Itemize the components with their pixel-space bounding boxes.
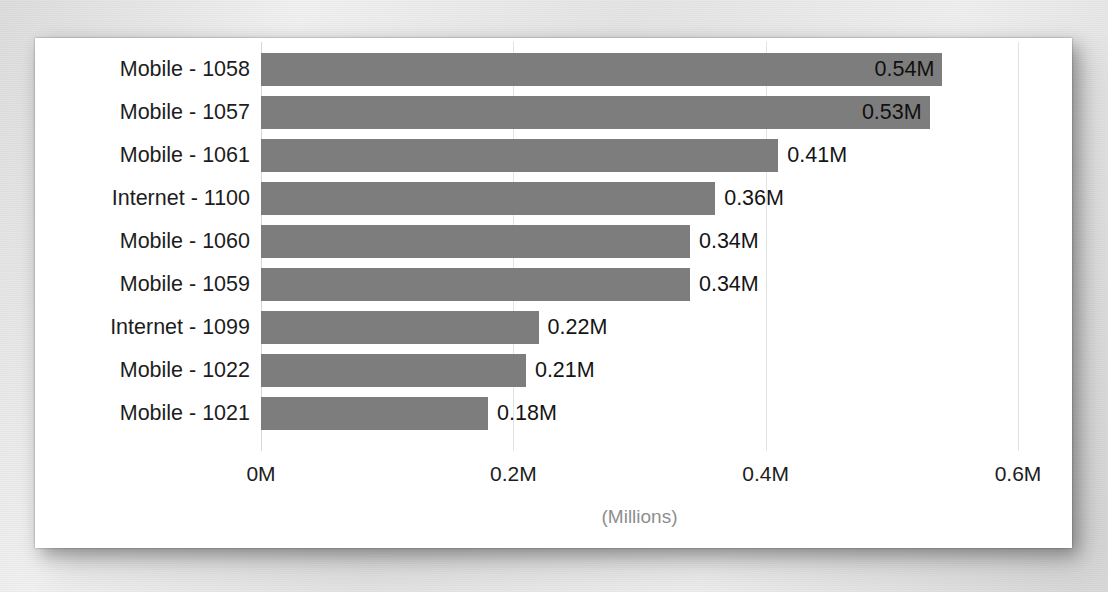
bar[interactable]	[261, 53, 942, 86]
x-tick-label: 0.4M	[706, 462, 826, 486]
bar-track: 0.53M	[261, 91, 1072, 134]
bar-chart-plot-area: Mobile - 10580.54MMobile - 10570.53MMobi…	[35, 38, 1072, 548]
bar-track: 0.34M	[261, 220, 1072, 263]
bar-value-label: 0.41M	[787, 139, 847, 172]
bar-row[interactable]: Mobile - 10610.41M	[35, 134, 1072, 177]
chart-card: Mobile - 10580.54MMobile - 10570.53MMobi…	[35, 38, 1072, 548]
bar[interactable]	[261, 354, 526, 387]
category-label: Mobile - 1060	[35, 220, 250, 263]
bar-track: 0.18M	[261, 392, 1072, 435]
x-tick-label: 0.6M	[958, 462, 1078, 486]
bar-value-label: 0.34M	[699, 268, 759, 301]
bar-track: 0.21M	[261, 349, 1072, 392]
category-label: Mobile - 1061	[35, 134, 250, 177]
category-label: Internet - 1100	[35, 177, 250, 220]
bar-row[interactable]: Mobile - 10600.34M	[35, 220, 1072, 263]
bar[interactable]	[261, 182, 715, 215]
category-label: Internet - 1099	[35, 306, 250, 349]
bar-track: 0.34M	[261, 263, 1072, 306]
bar-value-label: 0.54M	[842, 53, 934, 86]
bar-track: 0.36M	[261, 177, 1072, 220]
bar-track: 0.22M	[261, 306, 1072, 349]
bar-value-label: 0.18M	[497, 397, 557, 430]
bar-row[interactable]: Mobile - 10570.53M	[35, 91, 1072, 134]
x-tick-label: 0M	[201, 462, 321, 486]
category-label: Mobile - 1059	[35, 263, 250, 306]
x-tick-label: 0.2M	[453, 462, 573, 486]
bar[interactable]	[261, 311, 539, 344]
bar[interactable]	[261, 268, 690, 301]
category-label: Mobile - 1058	[35, 48, 250, 91]
bar-value-label: 0.22M	[548, 311, 608, 344]
bar[interactable]	[261, 225, 690, 258]
bar-row[interactable]: Mobile - 10580.54M	[35, 48, 1072, 91]
bar-track: 0.41M	[261, 134, 1072, 177]
category-label: Mobile - 1022	[35, 349, 250, 392]
bar-row[interactable]: Mobile - 10210.18M	[35, 392, 1072, 435]
bar-row[interactable]: Internet - 11000.36M	[35, 177, 1072, 220]
category-label: Mobile - 1057	[35, 91, 250, 134]
bar-track: 0.54M	[261, 48, 1072, 91]
bar-row[interactable]: Internet - 10990.22M	[35, 306, 1072, 349]
x-axis-title: (Millions)	[261, 506, 1018, 528]
bar-row[interactable]: Mobile - 10590.34M	[35, 263, 1072, 306]
bar-value-label: 0.34M	[699, 225, 759, 258]
bar-value-label: 0.53M	[830, 96, 922, 129]
bar[interactable]	[261, 397, 488, 430]
bar-value-label: 0.36M	[724, 182, 784, 215]
category-label: Mobile - 1021	[35, 392, 250, 435]
bar-value-label: 0.21M	[535, 354, 595, 387]
bar-row[interactable]: Mobile - 10220.21M	[35, 349, 1072, 392]
bar[interactable]	[261, 139, 778, 172]
